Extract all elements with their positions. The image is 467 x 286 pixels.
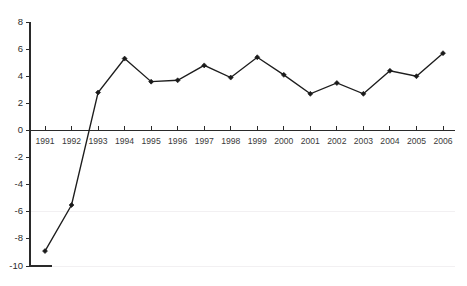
y-tick-label: -6 <box>15 205 23 216</box>
x-tick-label: 2002 <box>327 136 346 146</box>
x-tick-label: 2001 <box>301 136 320 146</box>
x-tick-label: 1991 <box>35 136 54 146</box>
y-tick-label: 8 <box>18 16 23 27</box>
x-tick-label: 1996 <box>168 136 187 146</box>
x-tick-label: 2000 <box>274 136 293 146</box>
x-axis-labels: 1991199219931994199519961997199819992000… <box>35 136 452 146</box>
y-tick-label: 2 <box>18 97 23 108</box>
chart-container: 86420-2-4-6-8-10 19911992199319941995199… <box>0 0 467 286</box>
y-tick-label: -10 <box>9 260 23 271</box>
x-tick-label: 1997 <box>195 136 214 146</box>
x-tick-label: 2003 <box>354 136 373 146</box>
line-chart-plot: 86420-2-4-6-8-10 19911992199319941995199… <box>0 0 467 286</box>
data-point-marker <box>334 81 339 86</box>
y-axis-ticks <box>26 22 30 266</box>
x-tick-label: 2006 <box>433 136 452 146</box>
x-tick-label: 1994 <box>115 136 134 146</box>
y-tick-label: 0 <box>18 124 23 135</box>
y-tick-label: -2 <box>15 151 23 162</box>
y-tick-label: -8 <box>15 232 23 243</box>
y-tick-label: 4 <box>18 70 23 81</box>
x-tick-label: 1999 <box>248 136 267 146</box>
x-tick-label: 2005 <box>407 136 426 146</box>
data-point-markers <box>43 51 446 254</box>
x-tick-label: 1993 <box>89 136 108 146</box>
x-tick-label: 2004 <box>380 136 399 146</box>
data-series-line <box>45 53 443 251</box>
y-tick-label: -4 <box>15 178 23 189</box>
y-axis-labels: 86420-2-4-6-8-10 <box>9 16 23 271</box>
x-tick-label: 1998 <box>221 136 240 146</box>
x-tick-label: 1995 <box>142 136 161 146</box>
faint-gridlines <box>30 212 455 266</box>
x-tick-label: 1992 <box>62 136 81 146</box>
x-axis-ticks <box>45 126 443 130</box>
y-tick-label: 6 <box>18 43 23 54</box>
